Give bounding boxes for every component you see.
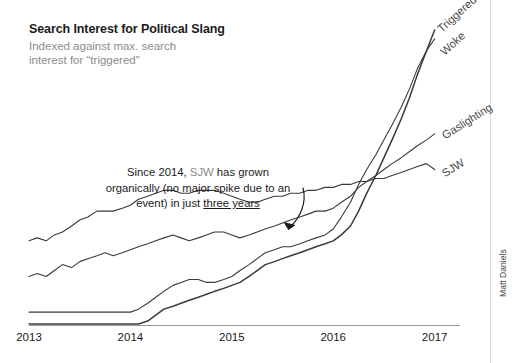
x-tick-2014: 2014 [118, 331, 144, 343]
x-tick-2013: 2013 [16, 331, 42, 343]
annotation-part1: Since 2014, [127, 166, 190, 178]
annotation-term: SJW [190, 166, 214, 178]
x-tick-2015: 2015 [219, 331, 245, 343]
chart-annotation: Since 2014, SJW has grown organically (n… [103, 165, 293, 212]
chart-figure: Search Interest for Political Slang Inde… [0, 0, 517, 363]
x-tick-2017: 2017 [422, 331, 448, 343]
x-tick-2016: 2016 [320, 331, 346, 343]
annotation-emphasis: three years [203, 197, 260, 209]
credit-byline: Matt Daniels [498, 249, 508, 297]
